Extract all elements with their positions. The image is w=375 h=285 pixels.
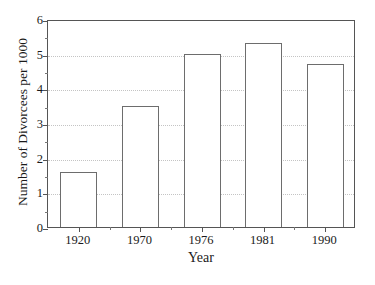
x-axis-tick-label: 1981: [238, 233, 288, 247]
x-axis-minor-tick: [110, 227, 111, 230]
x-axis-minor-tick: [233, 227, 234, 230]
y-axis-minor-tick: [45, 212, 48, 213]
y-axis-tick-label: 5: [23, 49, 43, 61]
y-axis-tick: [43, 90, 48, 91]
x-axis-tick: [140, 227, 141, 232]
y-axis-minor-tick: [45, 73, 48, 74]
plot-inner: [48, 21, 354, 227]
y-axis-tick-label: 1: [23, 187, 43, 199]
y-axis-tick: [43, 229, 48, 230]
x-axis-title: Year: [47, 250, 355, 266]
y-axis-minor-tick: [45, 108, 48, 109]
x-axis-tick-label: 1920: [53, 233, 103, 247]
y-axis-tick-label: 4: [23, 83, 43, 95]
x-axis-tick-label: 1970: [114, 233, 164, 247]
x-axis-minor-tick: [171, 227, 172, 230]
bar: [307, 64, 344, 227]
bar: [245, 43, 282, 227]
x-axis-tick: [264, 227, 265, 232]
y-axis-minor-tick: [45, 142, 48, 143]
y-axis-minor-tick: [45, 38, 48, 39]
x-axis-tick: [202, 227, 203, 232]
y-axis-tick: [43, 21, 48, 22]
x-axis-tick: [325, 227, 326, 232]
y-axis-tick-label: 2: [23, 153, 43, 165]
bar: [60, 172, 97, 227]
bar: [184, 54, 221, 227]
y-axis-tick: [43, 125, 48, 126]
bar: [122, 106, 159, 227]
x-axis-tick-label: 1990: [299, 233, 349, 247]
x-axis-minor-tick: [294, 227, 295, 230]
bar-chart: Number of Divorcees per 1000 0123456 192…: [0, 0, 375, 285]
y-axis-minor-tick: [45, 177, 48, 178]
y-axis-tick-label: 3: [23, 118, 43, 130]
y-axis-tick-label: 0: [23, 222, 43, 234]
x-axis-tick-label: 1976: [176, 233, 226, 247]
y-axis-tick: [43, 56, 48, 57]
y-axis-tick: [43, 160, 48, 161]
x-axis-tick: [79, 227, 80, 232]
y-axis-tick: [43, 194, 48, 195]
y-axis-tick-label: 6: [23, 14, 43, 26]
plot-area: [47, 20, 355, 228]
